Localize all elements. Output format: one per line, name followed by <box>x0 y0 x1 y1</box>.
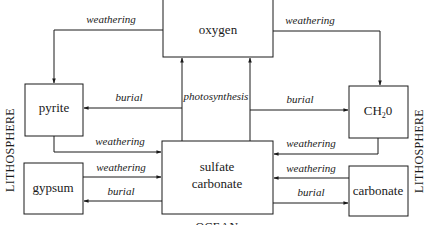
box-label-gypsum: gypsum <box>32 180 73 195</box>
label-weathering-ch2o: weathering <box>286 137 336 149</box>
label-weathering-carbonate: weathering <box>286 162 336 174</box>
box-label-carbonate: carbonate <box>353 183 404 198</box>
region-label-lithosphere-left: LITHOSPHERE <box>3 108 17 192</box>
box-ch2o: CH20 <box>349 86 408 138</box>
label-burial-ch2o: burial <box>287 93 314 105</box>
label-weathering-pyrite: weathering <box>95 135 145 147</box>
box-label-pyrite: pyrite <box>39 100 70 115</box>
arrow-oxygen-to-ch2o <box>273 31 380 85</box>
box-label-ch2o: CH20 <box>364 103 393 120</box>
label-photosynthesis: photosynthesis <box>183 90 249 102</box>
region-label-ocean: OCEAN <box>196 220 239 225</box>
arrow-oxygen-to-pyrite <box>54 30 163 83</box>
region-label-lithosphere-right: LITHOSPHERE <box>412 109 426 193</box>
box-carbonate: carbonate <box>349 166 408 216</box>
label-burial-gypsum: burial <box>108 185 135 197</box>
box-label-oxygen: oxygen <box>199 22 238 37</box>
label-weathering-gypsum: weathering <box>96 161 146 173</box>
box-pyrite: pyrite <box>25 84 83 136</box>
box-oxygen: oxygen <box>163 0 273 57</box>
box-sulfate-carbonate: sulfate carbonate <box>162 141 273 214</box>
box-gypsum: gypsum <box>24 163 83 214</box>
label-weathering-oxygen-pyrite: weathering <box>86 13 136 25</box>
label-burial-pyrite: burial <box>116 91 143 103</box>
geochemical-cycle-diagram: oxygen pyrite CH20 gypsum sulfate carbon… <box>0 0 427 225</box>
label-burial-carbonate: burial <box>298 186 325 198</box>
box-label-carbonate-ocean: carbonate <box>192 176 243 191</box>
label-weathering-oxygen-ch2o: weathering <box>285 14 335 26</box>
box-label-sulfate: sulfate <box>200 159 235 174</box>
